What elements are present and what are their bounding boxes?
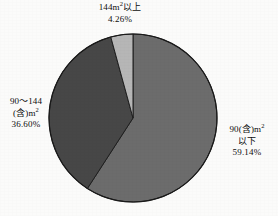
pie-label-90-to-144-range: 90～144 (1, 96, 51, 108)
pie-label-over-144-percent: 4.26% (78, 14, 162, 26)
pie-label-under-90: 90(含)m2 以下 59.14% (216, 124, 278, 159)
pie-label-90-to-144: 90～144 (含)m2 36.60% (1, 96, 51, 131)
chart-area: 144m2以上 4.26% 90～144 (含)m2 36.60% 90(含)m… (0, 0, 278, 216)
square-meter-superscript: 2 (261, 122, 264, 129)
pie-label-90-to-144-unit: (含)m2 (1, 108, 51, 120)
pie-label-under-90-percent: 59.14% (216, 147, 278, 159)
square-meter-superscript: 2 (36, 106, 39, 113)
pie-label-over-144-text: 144m2以上 (78, 2, 162, 14)
pie-label-90-to-144-percent: 36.60% (1, 119, 51, 131)
pie-chart-figure: 144m2以上 4.26% 90～144 (含)m2 36.60% 90(含)m… (0, 0, 278, 216)
pie-label-over-144: 144m2以上 4.26% (78, 2, 162, 25)
pie-label-under-90-unit: 90(含)m2 (216, 124, 278, 136)
pie-label-under-90-qualifier: 以下 (216, 136, 278, 148)
